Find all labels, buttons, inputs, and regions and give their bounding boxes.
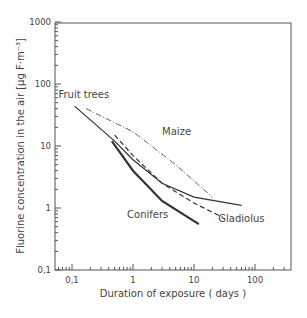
series-maize [86,109,212,197]
x-tick-label: 0,1 [65,275,79,285]
series-fruit-trees [75,106,242,205]
y-tick-label: 100 [35,79,51,89]
x-tick-label: 10 [189,275,200,285]
y-tick-label: 1000 [29,17,51,27]
series-label: Maize [162,126,191,137]
y-tick-label: 10 [40,141,51,151]
y-axis-label: Fluorine concentration in the air [µg F·… [15,38,26,254]
axis-ticks: 0,11101000,11101001000 [29,17,284,285]
plot-frame [55,23,291,270]
x-tick-label: 100 [247,275,263,285]
series-label: Conifers [127,209,168,220]
x-tick-label: 1 [130,275,135,285]
series-label: Gladiolus [218,213,264,224]
x-axis-label: Duration of exposure ( days ) [100,288,246,299]
series-lines [75,106,242,224]
chart-svg: 0,11101000,11101001000 Fruit treesMaizeC… [0,0,307,318]
series-label: Fruit trees [58,89,109,100]
y-tick-label: 0,1 [37,265,51,275]
y-tick-label: 1 [46,203,51,213]
